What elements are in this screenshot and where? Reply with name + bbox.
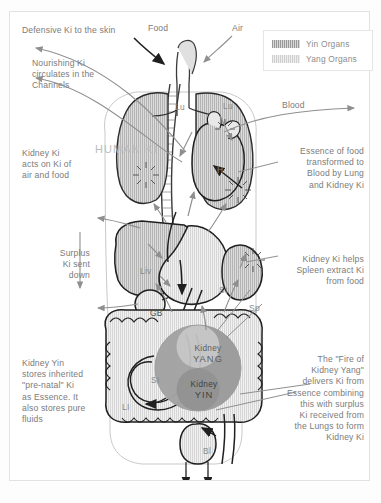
legend-label-yang: Yang Organs	[306, 54, 357, 64]
label-organ-small-intestine: SI	[151, 375, 160, 385]
caption-blood: Blood	[282, 100, 305, 111]
diagram-page: Yin Organs Yang Organs Food Air Defensiv…	[0, 0, 381, 503]
air-input-arrow	[204, 36, 232, 62]
fluid-output-arrows	[186, 470, 208, 480]
caption-surplus-ki: Surplus Ki sent down	[18, 248, 90, 282]
yang-organs-swatch	[272, 55, 300, 63]
label-air: Air	[232, 23, 243, 34]
label-human-ki: HUMAN KI	[95, 143, 158, 155]
kidney-yin-line2: YIN	[195, 389, 214, 400]
caption-spleen-extract: Kidney Ki helps Spleen extract Ki from f…	[268, 254, 364, 288]
kidney-yang-line2: YANG	[193, 353, 223, 364]
caption-defensive-ki: Defensive Ki to the skin	[22, 25, 162, 36]
diagram-frame: Yin Organs Yang Organs Food Air Defensiv…	[9, 11, 370, 481]
caption-nourishing-ki: Nourishing Ki circulates in the Channels	[32, 58, 142, 92]
label-organ-spleen: Sp	[249, 303, 260, 313]
caption-kidney-yin: Kidney Yin stores inherited "pre-natal" …	[22, 358, 134, 425]
kidney-yang-line1: Kidney	[195, 344, 222, 353]
organ-spleen	[222, 245, 262, 300]
label-organ-bladder: Bl	[203, 446, 211, 456]
label-organ-liver: Liv	[140, 266, 152, 276]
label-kidney-yin: Kidney YIN	[174, 380, 234, 401]
yin-organs-swatch	[272, 40, 300, 48]
caption-essence-of-food: Essence of food transformed to Blood by …	[268, 146, 364, 191]
legend-item-yin: Yin Organs	[272, 36, 372, 51]
label-organ-large-intestine: LI	[122, 402, 130, 412]
label-organ-lung-left: Lu	[175, 102, 185, 112]
legend-label-yin: Yin Organs	[306, 39, 350, 49]
caption-fire-of-kidney-yang: The "Fire of Kidney Yang" delivers Ki fr…	[266, 354, 364, 444]
label-organ-stomach: St	[219, 285, 228, 295]
label-organ-heart: H	[217, 165, 223, 175]
label-organ-lung-right: Lu	[223, 101, 233, 111]
label-organ-gallbladder: GB	[150, 308, 163, 318]
label-kidney-yang: Kidney YANG	[178, 344, 238, 365]
kidney-yin-line1: Kidney	[191, 380, 218, 389]
legend-box: Yin Organs Yang Organs	[263, 30, 373, 71]
legend-item-yang: Yang Organs	[272, 51, 372, 66]
